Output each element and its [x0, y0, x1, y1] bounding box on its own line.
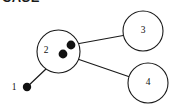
node-label-3: 3 [141, 25, 146, 35]
inner-point-lower[interactable] [59, 50, 68, 59]
node-label-1: 1 [12, 82, 17, 92]
graph-svg: 1 2 3 4 [0, 0, 171, 108]
nodes-group [37, 11, 168, 103]
diagram-canvas: CASE 1 2 3 4 [0, 0, 171, 108]
node-label-4: 4 [146, 77, 151, 87]
node-label-2: 2 [44, 45, 49, 55]
node-dot-1[interactable] [23, 83, 31, 91]
node1-group [23, 83, 31, 91]
inner-point-upper[interactable] [67, 41, 76, 50]
